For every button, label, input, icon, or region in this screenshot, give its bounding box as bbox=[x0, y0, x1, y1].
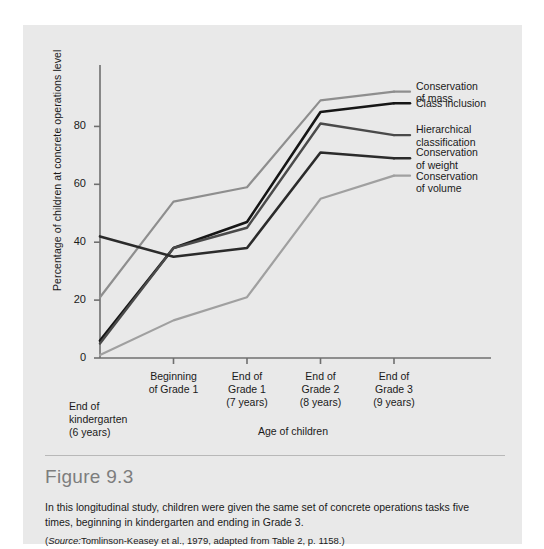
source-paren-close: ) bbox=[341, 535, 344, 546]
figure-source-line: (Source:Tomlinson-Keasey et al., 1979, a… bbox=[45, 535, 497, 546]
chart-plot-area: Percentage of children at concrete opera… bbox=[23, 25, 522, 455]
x-tick-label-4: End ofGrade 3(9 years) bbox=[339, 370, 449, 409]
legend-item-3: Conservationof weight bbox=[416, 146, 478, 171]
y-tick-label: 60 bbox=[60, 177, 86, 189]
series-line-2 bbox=[100, 124, 394, 344]
series-line-0 bbox=[100, 92, 394, 298]
x-axis-title: Age of children bbox=[143, 425, 443, 437]
legend-item-2: Hierarchicalclassification bbox=[416, 123, 476, 148]
source-text: Tomlinson-Keasey et al., 1979, adapted f… bbox=[81, 535, 342, 546]
caption-divider bbox=[45, 455, 505, 456]
y-tick-label: 40 bbox=[60, 235, 86, 247]
figure-caption-text: In this longitudinal study, children wer… bbox=[45, 500, 497, 529]
y-tick-label: 0 bbox=[60, 351, 86, 363]
figure-container: Percentage of children at concrete opera… bbox=[23, 25, 522, 544]
series-line-1 bbox=[100, 103, 394, 340]
series-line-4 bbox=[100, 176, 394, 355]
source-label: Source: bbox=[48, 535, 81, 546]
legend-item-1: Class inclusion bbox=[416, 97, 486, 110]
y-tick-label: 20 bbox=[60, 293, 86, 305]
legend-item-4: Conservationof volume bbox=[416, 170, 478, 195]
figure-number: Figure 9.3 bbox=[45, 466, 134, 488]
y-tick-label: 80 bbox=[60, 119, 86, 131]
